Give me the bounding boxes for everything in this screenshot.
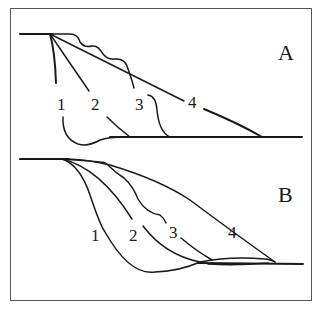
panel-b-label-4: 4	[228, 223, 237, 242]
panel-a-curve-4-upper	[50, 34, 184, 101]
panel-b-label-2: 2	[129, 226, 138, 245]
panel-a-curve-4-lower	[204, 109, 262, 137]
panel-a-label-1: 1	[57, 95, 66, 114]
panel-a: 1 2 3 4 A	[20, 34, 302, 145]
panel-a-label-4: 4	[188, 93, 197, 112]
panel-a-title: A	[278, 40, 294, 65]
panel-a-curve-3-upper	[50, 34, 134, 88]
panel-a-curve-2-lower	[107, 117, 130, 137]
panel-a-label-3: 3	[135, 95, 144, 114]
slope-profile-diagram: 1 2 3 4 A 1 2 3 4 B	[0, 0, 325, 326]
panel-b-curve-3-upper	[62, 159, 166, 223]
panel-b-label-3: 3	[169, 223, 178, 242]
figure-caption	[10, 314, 315, 326]
panel-a-curve-1-lower	[63, 117, 125, 145]
panel-b: 1 2 3 4 B	[20, 159, 303, 272]
panel-b-curve-3-lower	[181, 238, 212, 260]
panel-b-base-surface	[198, 263, 303, 264]
panel-b-title: B	[278, 182, 293, 207]
panel-a-curve-3-lower	[148, 95, 170, 137]
panel-b-label-1: 1	[91, 226, 100, 245]
panel-a-label-2: 2	[91, 95, 100, 114]
